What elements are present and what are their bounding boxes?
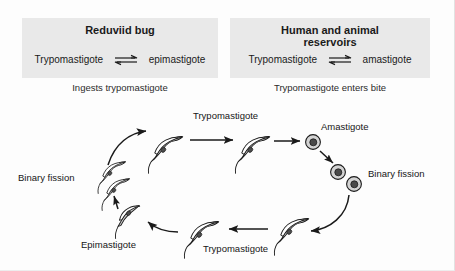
arrow-fission-to-trypomastigote [108,131,146,165]
stage-trypomastigote-lower-right [266,216,317,255]
reservoirs-caption: Trypomastigote enters bite [230,82,430,93]
reduviid-bug-caption: Ingests trypomastigote [22,82,218,93]
arrow-epimastigote-to-fission [114,196,118,209]
stage-amastigote-dividing-upper [331,165,346,180]
reduviid-bug-title: Reduviid bug [22,24,218,36]
label-binary-fission-left: Binary fission [18,172,75,183]
reduviid-bug-panel: Reduviid bug Trypomastigote epimastigote [22,18,218,78]
reservoirs-title-line2: reservoirs [230,36,430,48]
arrow-trypomastigote-to-epimastigote [148,222,178,232]
reservoirs-equilibrium: Trypomastigote amastigote [230,54,430,66]
label-binary-fission-right: Binary fission [368,168,425,179]
stage-trypomastigote-upper-right [227,134,278,173]
stage-epimastigote [107,204,148,238]
reduviid-bug-equilibrium: Trypomastigote epimastigote [22,54,218,66]
reduviid-left-term: Trypomastigote [35,54,104,65]
figure-container: Reduviid bug Trypomastigote epimastigote… [0,0,455,271]
reservoirs-title-line1: Human and animal [230,24,430,36]
equilibrium-double-arrow-icon [113,54,139,66]
label-epimastigote: Epimastigote [81,239,136,250]
stage-trypomastigote-upper-left [140,134,191,173]
equilibrium-double-arrow-icon [327,54,353,66]
stage-binary-fission-pair-lower [94,177,137,211]
label-trypomastigote-top: Trypomastigote [193,110,258,121]
arrow-fission-to-trypomastigote-lower [311,195,349,231]
arrow-amastigote-to-fission [320,151,333,163]
human-animal-reservoirs-panel: Human and animal reservoirs Trypomastigo… [230,18,430,78]
reservoirs-right-term: amastigote [363,54,412,65]
label-amastigote: Amastigote [321,121,369,132]
reservoirs-left-term: Trypomastigote [248,54,317,65]
stage-amastigote-single [306,135,321,150]
reduviid-right-term: epimastigote [149,54,206,65]
stage-amastigote-dividing-lower [347,177,362,192]
human-animal-reservoirs-title: Human and animal reservoirs [230,24,430,48]
label-trypomastigote-bottom: Trypomastigote [203,243,268,254]
